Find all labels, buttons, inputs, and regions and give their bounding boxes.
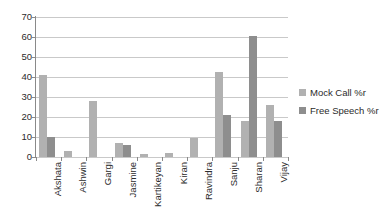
bar-group: [61, 17, 86, 157]
x-axis-tick-mark: [61, 157, 62, 161]
chart-legend: Mock Call %rFree Speech %r: [299, 88, 379, 123]
bar: [123, 145, 131, 157]
legend-swatch-icon: [299, 107, 306, 114]
x-axis-category-label: Vijay: [279, 162, 289, 182]
x-axis-tick-mark: [187, 157, 188, 161]
bar: [223, 115, 231, 157]
bar: [47, 137, 55, 157]
bar-group: [137, 17, 162, 157]
y-axis-tick-mark: [32, 57, 35, 58]
bar-group: [36, 17, 61, 157]
bar: [140, 154, 148, 157]
legend-item[interactable]: Mock Call %r: [299, 88, 379, 98]
bar-group: [187, 17, 212, 157]
x-axis-category-label: Ravindra: [204, 162, 214, 200]
x-axis-tick-mark: [86, 157, 87, 161]
y-axis-tick-mark: [32, 157, 35, 158]
x-axis-category-labels: AkshataAshwinGargiJasmineKartikeyanKiran…: [36, 162, 288, 222]
x-axis-tick-mark: [112, 157, 113, 161]
bar-group: [212, 17, 237, 157]
bar: [115, 143, 123, 157]
x-axis-category-label: Ashwin: [78, 162, 88, 193]
bar: [64, 151, 72, 157]
y-axis-tick-label: 50: [6, 52, 32, 62]
bar-group: [162, 17, 187, 157]
bar-group: [112, 17, 137, 157]
y-axis-tick-mark: [32, 17, 35, 18]
bar: [165, 153, 173, 157]
y-axis-tick-mark: [32, 77, 35, 78]
y-axis-tick-mark: [32, 37, 35, 38]
bar-group: [238, 17, 263, 157]
x-axis-tick-mark: [162, 157, 163, 161]
bar: [249, 36, 257, 157]
bar-group: [263, 17, 288, 157]
bar: [89, 101, 97, 157]
x-axis-tick-mark: [36, 157, 37, 161]
x-axis-category-label: Kartikeyan: [153, 162, 163, 207]
y-axis-tick-label: 20: [6, 112, 32, 122]
x-axis-category-label: Gargi: [103, 162, 113, 185]
x-axis-category-label: Jasmine: [128, 162, 138, 197]
x-axis-tick-mark: [137, 157, 138, 161]
x-axis-tick-mark: [288, 157, 289, 161]
bar: [274, 121, 282, 157]
bar: [241, 121, 249, 157]
bar: [190, 138, 198, 157]
y-axis-tick-label: 0: [6, 152, 32, 162]
bar: [39, 75, 47, 157]
legend-swatch-icon: [299, 89, 306, 96]
bar: [266, 105, 274, 157]
legend-item[interactable]: Free Speech %r: [299, 106, 379, 116]
x-axis-tick-mark: [263, 157, 264, 161]
y-axis-tick-label: 10: [6, 132, 32, 142]
bar: [215, 72, 223, 157]
y-axis-tick-mark: [32, 137, 35, 138]
y-axis-tick-label: 60: [6, 32, 32, 42]
legend-label: Mock Call %r: [310, 88, 366, 98]
y-axis-tick-label: 70: [6, 12, 32, 22]
x-axis-category-label: Kiran: [179, 162, 189, 184]
y-axis-tick-mark: [32, 97, 35, 98]
y-axis-tick-label: 30: [6, 92, 32, 102]
x-axis-category-label: Sanju: [229, 162, 239, 186]
x-axis-category-label: Sharan: [254, 162, 264, 193]
legend-label: Free Speech %r: [310, 106, 379, 116]
x-axis-tick-mark: [212, 157, 213, 161]
x-axis-tick-mark: [238, 157, 239, 161]
y-axis-tick-label: 40: [6, 72, 32, 82]
bar-group: [86, 17, 111, 157]
x-axis-category-label: Akshata: [53, 162, 63, 196]
plot-area: [36, 17, 288, 157]
bar-chart: 706050403020100 AkshataAshwinGargiJasmin…: [0, 0, 381, 224]
y-axis-tick-mark: [32, 117, 35, 118]
